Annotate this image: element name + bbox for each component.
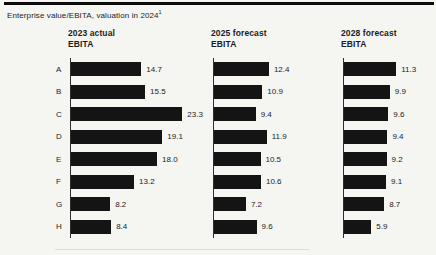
bar [214,130,267,144]
bar-row: 9.1 [343,171,436,194]
bar [344,197,384,211]
bar [214,175,261,189]
value-label: 10.6 [266,177,282,186]
bar-row: 9.6 [343,103,436,126]
category-label: A [56,65,61,74]
bar-row: H8.4 [70,216,210,239]
bar [214,85,262,99]
bar-row: G8.2 [70,193,210,216]
figure-title: Enterprise value/EBITA, valuation in 202… [7,9,162,20]
bar [344,152,387,166]
bar [71,85,145,99]
bar [214,62,269,76]
chart-header-line1: 2028 forecast [341,28,436,39]
category-label: D [56,132,62,141]
chart-2025-forecast-ebita: 2025 forecast EBITA 12.410.99.411.910.51… [213,28,339,238]
chart-header-line1: 2025 forecast [211,28,339,39]
bar [214,152,261,166]
value-label: 18.0 [162,155,178,164]
value-label: 9.2 [392,155,403,164]
chart-header: 2025 forecast EBITA [211,28,339,50]
bar [214,107,256,121]
value-label: 9.9 [395,87,406,96]
bar-row: 10.5 [213,148,339,171]
bar-row: F13.2 [70,171,210,194]
top-rule [4,2,434,5]
value-label: 11.9 [272,132,287,141]
value-label: 8.4 [116,222,127,231]
bar-row: 11.3 [343,58,436,81]
bar [344,107,388,121]
bar [344,220,371,234]
bar-row: D19.1 [70,126,210,149]
category-label: B [56,87,61,96]
bar [344,175,386,189]
bar-row: 11.9 [213,126,339,149]
value-label: 13.2 [139,177,155,186]
bar-row: 9.4 [343,126,436,149]
bar-row: 9.2 [343,148,436,171]
category-label: E [56,155,61,164]
chart-header-line2: EBITA [341,39,436,50]
bar [344,85,390,99]
bar-row: C23.3 [70,103,210,126]
value-label: 19.1 [167,132,183,141]
plot-area: 11.39.99.69.49.29.18.75.9 [343,58,436,238]
bar [71,107,182,121]
value-label: 7.2 [251,200,262,209]
bar [214,197,246,211]
bar-row: A14.7 [70,58,210,81]
category-label: F [56,177,61,186]
bar-row: 9.4 [213,103,339,126]
value-label: 9.6 [262,222,273,231]
value-label: 9.4 [392,132,403,141]
bar-row: 12.4 [213,58,339,81]
value-label: 9.6 [393,110,404,119]
figure-title-text: Enterprise value/EBITA, valuation in 202… [7,11,159,20]
bar [71,152,157,166]
value-label: 14.7 [146,65,162,74]
value-label: 15.5 [150,87,166,96]
figure: Enterprise value/EBITA, valuation in 202… [0,0,436,255]
chart-header: 2028 forecast EBITA [341,28,436,50]
bar-row: B15.5 [70,81,210,104]
chart-header-line2: EBITA [68,39,210,50]
bar [71,220,111,234]
chart-header-line2: EBITA [211,39,339,50]
value-label: 10.5 [266,155,282,164]
bar-row: 10.6 [213,171,339,194]
bar-row: E18.0 [70,148,210,171]
value-label: 9.1 [391,177,402,186]
bar-row: 7.2 [213,193,339,216]
category-label: H [56,222,62,231]
bar-row: 10.9 [213,81,339,104]
bar-row: 5.9 [343,216,436,239]
plot-area: 12.410.99.411.910.510.67.29.6 [213,58,339,238]
bar-row: 8.7 [343,193,436,216]
bar [214,220,257,234]
bar [71,62,141,76]
plot-area: A14.7B15.5C23.3D19.1E18.0F13.2G8.2H8.4 [70,58,210,238]
category-label: G [56,200,62,209]
value-label: 8.2 [115,200,126,209]
bar [71,197,110,211]
chart-2023-actual-ebita: 2023 actual EBITA A14.7B15.5C23.3D19.1E1… [70,28,210,238]
value-label: 9.4 [261,110,272,119]
value-label: 5.9 [376,222,387,231]
bar [71,175,134,189]
chart-2028-forecast-ebita: 2028 forecast EBITA 11.39.99.69.49.29.18… [343,28,436,238]
scan-artifact-line [55,249,310,250]
value-label: 12.4 [274,65,290,74]
bar [71,130,162,144]
bar-row: 9.9 [343,81,436,104]
chart-header-line1: 2023 actual [68,28,210,39]
bar [344,130,387,144]
bar-row: 9.6 [213,216,339,239]
value-label: 10.9 [267,87,283,96]
value-label: 11.3 [401,65,416,74]
chart-header: 2023 actual EBITA [68,28,210,50]
value-label: 23.3 [187,110,203,119]
footnote-marker: 1 [159,9,162,15]
bar [344,62,396,76]
value-label: 8.7 [389,200,400,209]
